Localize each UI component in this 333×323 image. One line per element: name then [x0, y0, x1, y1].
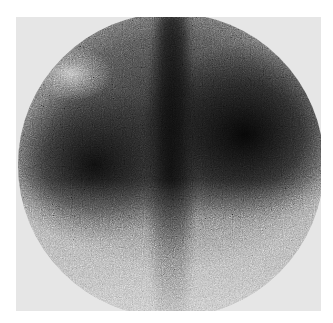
- scan-frame: [16, 17, 321, 311]
- speckle-texture: [18, 17, 321, 311]
- scintigraphy-field: [18, 17, 321, 311]
